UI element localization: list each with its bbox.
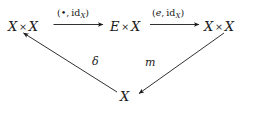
commutative-diagram: X×X E×X X×X X (•, idX) (e, idX) δ m [0,0,254,114]
node-mid-term-1: E [110,19,120,34]
node-left-x-times-x: X×X [8,20,38,33]
node-left-term-2: X [29,19,38,34]
edge-label-m: m [145,57,155,68]
times-icon: × [17,21,28,32]
node-mid-term-2: X [131,19,140,34]
paren-close: ) [85,7,89,18]
times-icon: × [213,21,224,32]
node-right-term-2: X [225,19,234,34]
times-icon: × [120,21,131,32]
edge-label-top-left: (•, idX) [57,8,89,20]
node-bottom-label: X [120,89,129,104]
node-right-x-times-x: X×X [204,20,234,33]
edge-label-top-right: (e, idX) [152,8,184,20]
node-bottom-x: X [120,90,129,103]
paren-close: ) [180,7,184,18]
edge-arrow-delta [24,33,118,92]
identity-text: id [71,7,80,18]
node-mid-e-times-x: E×X [110,20,140,33]
edge-label-delta: δ [92,56,99,67]
